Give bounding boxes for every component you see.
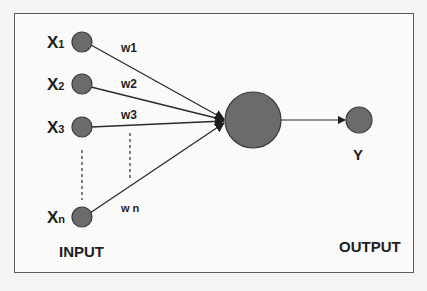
input-node-x3 — [72, 117, 92, 137]
neuron-node — [225, 92, 281, 148]
edge-x3 — [91, 121, 224, 127]
input-node-x2 — [72, 74, 92, 94]
input-node-x1 — [72, 32, 92, 52]
perceptron-diagram: X1 X2 X3 Xn w1 w2 w3 w n Y INPUT OUTPUT — [0, 0, 427, 291]
input-node-xn — [72, 207, 92, 227]
weight-label-wn: w n — [120, 202, 140, 214]
section-label-input: INPUT — [59, 243, 104, 260]
input-label-xn: Xn — [47, 208, 65, 227]
input-label-x2: X2 — [47, 75, 64, 94]
edge-x2 — [91, 87, 224, 120]
input-label-x1: X1 — [47, 33, 64, 52]
output-node — [346, 107, 372, 133]
output-label-y: Y — [353, 146, 363, 163]
weight-label-w1: w1 — [120, 41, 137, 55]
edge-x1 — [91, 45, 224, 119]
weight-label-w3: w3 — [120, 108, 137, 122]
connections — [90, 45, 345, 213]
weight-label-w2: w2 — [120, 77, 137, 91]
section-label-output: OUTPUT — [339, 238, 401, 255]
edge-xn — [90, 123, 224, 213]
input-label-x3: X3 — [47, 118, 64, 137]
